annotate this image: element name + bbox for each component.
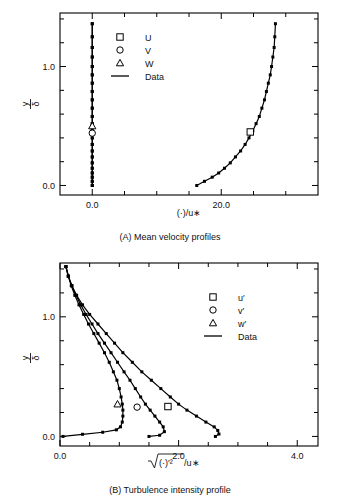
panel-a-curve-U bbox=[197, 24, 276, 186]
panel-a-datapoint-W bbox=[91, 90, 94, 93]
panel-a-symbol-V bbox=[89, 130, 95, 136]
panel-a-datapoint-U bbox=[239, 149, 242, 152]
panel-a-datapoint-W bbox=[91, 82, 94, 85]
panel-b-datapoint-w′ bbox=[118, 387, 121, 390]
panel-b-datapoint-v′ bbox=[139, 395, 142, 398]
panel-a-datapoint-W bbox=[91, 73, 94, 76]
panel-a-datapoint-W bbox=[91, 155, 94, 158]
panel-b-symbol-w′ bbox=[114, 401, 121, 407]
panel-b-datapoint-w′ bbox=[112, 370, 115, 373]
panel-b-datapoint-w′ bbox=[81, 433, 84, 436]
panel-a-datapoint-U bbox=[247, 136, 250, 139]
panel-b-datapoint-u′ bbox=[217, 433, 220, 436]
panel-b-curve-w′ bbox=[63, 267, 123, 437]
panel-b-legend-label: w′ bbox=[237, 319, 246, 329]
panel-a-datapoint-U bbox=[211, 176, 214, 179]
panel-a-svg: 0.020.00.01.0 UVWData y δ (·)/u∗ (A) Mea… bbox=[0, 0, 340, 250]
panel-b-datapoint-u′ bbox=[131, 361, 134, 364]
panel-b-datapoint-u′ bbox=[185, 409, 188, 412]
panel-a-datapoint-W bbox=[91, 46, 94, 49]
panel-b-datapoint-u′ bbox=[213, 425, 216, 428]
panel-a-datapoint-U bbox=[217, 171, 220, 174]
panel-b-datapoint-w′ bbox=[121, 415, 124, 418]
panel-a-x-axis-label: (·)/u∗ bbox=[177, 208, 202, 218]
panel-a-datapoint-U bbox=[269, 73, 272, 76]
panel-b-axes: 0.02.04.00.01.0 bbox=[42, 263, 318, 461]
panel-a-y-tick-label: 1.0 bbox=[42, 62, 55, 72]
panel-b-y-tick-label: 0.0 bbox=[42, 432, 55, 442]
panel-b-datapoint-v′ bbox=[128, 379, 131, 382]
panel-a-legend-label: V bbox=[145, 46, 151, 56]
panel-a-y-axis-label: y δ bbox=[20, 99, 41, 109]
panel-b-datapoint-w′ bbox=[119, 425, 122, 428]
panel-a-y-label-denominator: δ bbox=[31, 101, 41, 106]
panel-b-datapoint-v′ bbox=[110, 351, 113, 354]
panel-a-symbol-W bbox=[89, 122, 96, 128]
panel-b-datapoint-w′ bbox=[115, 428, 118, 431]
panel-a-datapoint-U bbox=[234, 155, 237, 158]
panel-b-datapoint-v′ bbox=[158, 421, 161, 424]
panel-b-datapoint-w′ bbox=[73, 294, 76, 297]
panel-b-datapoint-u′ bbox=[150, 379, 153, 382]
panel-a-legend-circle-icon bbox=[117, 47, 123, 53]
panel-b-datapoint-v′ bbox=[163, 430, 166, 433]
panel-b-datapoint-v′ bbox=[134, 387, 137, 390]
panel-b-datapoint-w′ bbox=[121, 409, 124, 412]
panel-b-datapoint-u′ bbox=[105, 332, 108, 335]
panel-b-datapoint-w′ bbox=[64, 265, 67, 268]
panel-b-caption: (B) Turbulence intensity profile bbox=[109, 485, 231, 495]
panel-a-datapoint-U bbox=[273, 46, 276, 49]
panel-b-datapoint-v′ bbox=[147, 435, 150, 438]
panel-a-datapoint-U bbox=[223, 167, 226, 170]
panel-a-plot-frame bbox=[60, 13, 318, 195]
panel-b-curve-u′ bbox=[66, 267, 219, 437]
panel-b-datapoint-u′ bbox=[88, 313, 91, 316]
panel-a-datapoint-W bbox=[91, 167, 94, 170]
panel-b-y-tick-label: 1.0 bbox=[42, 312, 55, 322]
panel-b-datapoint-w′ bbox=[120, 395, 123, 398]
panel-b-legend-triangle-icon bbox=[209, 319, 216, 325]
panel-a-x-tick-label: 0.0 bbox=[86, 200, 99, 210]
panel-b-datapoint-w′ bbox=[103, 351, 106, 354]
panel-b-legend-label: Data bbox=[238, 332, 257, 342]
panel-b-x-label-radicand: (·)′² bbox=[159, 458, 173, 468]
panel-a-datapoint-U bbox=[244, 143, 247, 146]
panel-a-symbol-U bbox=[247, 129, 253, 135]
panel-b-datapoint-u′ bbox=[159, 387, 162, 390]
panel-a-datapoint-W bbox=[91, 180, 94, 183]
panel-a-datapoint-W bbox=[91, 65, 94, 68]
panel-b-curves bbox=[61, 265, 220, 438]
panel-a-datapoint-U bbox=[273, 35, 276, 38]
panel-a-datapoint-W bbox=[91, 136, 94, 139]
panel-a-legend-square-icon bbox=[117, 34, 123, 40]
panel-b-datapoint-w′ bbox=[92, 332, 95, 335]
panel-b-datapoint-v′ bbox=[96, 332, 99, 335]
panel-a-legend-label: U bbox=[145, 33, 152, 43]
panel-b-legend-circle-icon bbox=[210, 307, 216, 313]
panel-a-datapoint-U bbox=[265, 90, 268, 93]
panel-a-datapoint-U bbox=[263, 98, 266, 101]
panel-b-datapoint-w′ bbox=[87, 323, 90, 326]
panel-a-datapoint-U bbox=[271, 56, 274, 59]
panel-b-turbulence-intensity: 0.02.04.00.01.0 u′v′w′Data y δ (·)′² /u∗… bbox=[0, 250, 340, 503]
panel-b-datapoint-w′ bbox=[70, 284, 73, 287]
panel-a-mean-velocity: 0.020.00.01.0 UVWData y δ (·)/u∗ (A) Mea… bbox=[0, 0, 340, 250]
figure-root: 0.020.00.01.0 UVWData y δ (·)/u∗ (A) Mea… bbox=[0, 0, 340, 503]
panel-b-datapoint-w′ bbox=[108, 361, 111, 364]
panel-b-datapoint-w′ bbox=[101, 431, 104, 434]
panel-b-y-label-numerator: y bbox=[20, 355, 30, 360]
panel-b-x-tick-label: 2.0 bbox=[172, 451, 185, 461]
panel-a-datapoint-W bbox=[91, 98, 94, 101]
panel-a-y-label-numerator: y bbox=[20, 101, 30, 106]
panel-b-datapoint-v′ bbox=[149, 409, 152, 412]
panel-b-datapoint-v′ bbox=[144, 403, 147, 406]
panel-a-legend-label: W bbox=[145, 59, 154, 69]
panel-b-symbol-v′ bbox=[134, 404, 140, 410]
panel-a-datapoint-W bbox=[91, 176, 94, 179]
panel-a-curves bbox=[89, 22, 277, 187]
panel-a-legend-triangle-icon bbox=[116, 59, 123, 65]
panel-a-datapoint-U bbox=[270, 65, 273, 68]
panel-b-datapoint-w′ bbox=[98, 342, 101, 345]
panel-a-datapoint-U bbox=[274, 22, 277, 25]
panel-b-datapoint-u′ bbox=[204, 421, 207, 424]
